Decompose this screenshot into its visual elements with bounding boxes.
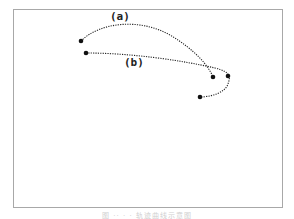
- curve-b-end-point: [198, 95, 203, 100]
- curve-b-turn-point: [226, 74, 231, 79]
- curve-a: [81, 24, 213, 77]
- label-a: (a): [110, 10, 130, 23]
- curve-b: [86, 53, 229, 97]
- label-b: (b): [124, 56, 144, 69]
- figure-caption: 图 ·· · · 轨迹曲线示意图: [0, 210, 294, 219]
- curve-a-start-point: [79, 39, 84, 44]
- curve-a-end-point: [211, 75, 216, 80]
- curve-b-start-point: [84, 51, 89, 56]
- trajectory-diagram: [0, 0, 294, 219]
